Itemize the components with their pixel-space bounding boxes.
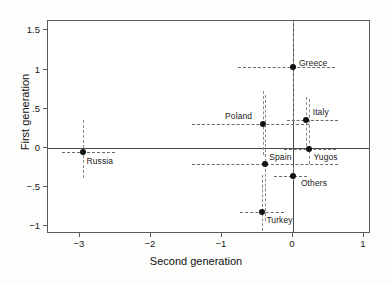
data-point-label: Others bbox=[301, 178, 327, 188]
x-axis-label: Second generation bbox=[0, 255, 392, 267]
data-point-label: Italy bbox=[313, 107, 329, 117]
x-axis-tick bbox=[150, 233, 151, 237]
data-point bbox=[306, 146, 312, 152]
y-axis-tick bbox=[43, 186, 47, 187]
error-bar-horizontal bbox=[287, 120, 337, 121]
error-bar-vertical bbox=[262, 175, 263, 231]
x-axis-tick bbox=[79, 233, 80, 237]
data-point bbox=[80, 149, 86, 155]
y-axis-label: First generation bbox=[19, 32, 31, 192]
x-axis-tick-label: −1 bbox=[216, 238, 227, 249]
x-axis-tick bbox=[221, 233, 222, 237]
plot-area: GreeceItalyPolandYugosSpainOthersTurkeyR… bbox=[47, 20, 370, 233]
y-axis-tick-label: 1 bbox=[35, 63, 40, 74]
x-axis-tick bbox=[292, 233, 293, 237]
y-axis-tick bbox=[43, 225, 47, 226]
data-point-label: Russia bbox=[86, 156, 113, 166]
x-axis-tick bbox=[363, 233, 364, 237]
data-point bbox=[290, 64, 296, 70]
error-bar-vertical bbox=[265, 95, 266, 221]
error-bar-vertical bbox=[309, 99, 310, 164]
y-axis-tick bbox=[43, 29, 47, 30]
y-axis-tick-label: .5 bbox=[32, 102, 40, 113]
y-axis-tick bbox=[43, 108, 47, 109]
data-point bbox=[262, 161, 268, 167]
x-axis-tick-label: 1 bbox=[360, 238, 365, 249]
y-axis-tick bbox=[43, 147, 47, 148]
error-bar-horizontal bbox=[192, 124, 308, 125]
data-point-label: Greece bbox=[299, 58, 327, 68]
data-point-label: Poland bbox=[225, 111, 252, 121]
x-axis-tick-label: 0 bbox=[289, 238, 294, 249]
data-point bbox=[290, 173, 296, 179]
x-axis-tick-label: −3 bbox=[74, 238, 85, 249]
scatter-plot-figure: GreeceItalyPolandYugosSpainOthersTurkeyR… bbox=[0, 0, 392, 284]
data-point-label: Yugos bbox=[314, 152, 338, 162]
data-point-label: Spain bbox=[269, 152, 291, 162]
y-axis-tick-label: −1 bbox=[29, 220, 40, 231]
y-axis-tick bbox=[43, 69, 47, 70]
data-point-label: Turkey bbox=[266, 215, 292, 225]
error-bar-horizontal bbox=[62, 152, 115, 153]
y-axis-tick-label: −.5 bbox=[27, 181, 40, 192]
y-axis-tick-label: 0 bbox=[35, 141, 40, 152]
y-axis-tick-label: 1.5 bbox=[27, 24, 40, 35]
x-axis-tick-label: −2 bbox=[145, 238, 156, 249]
